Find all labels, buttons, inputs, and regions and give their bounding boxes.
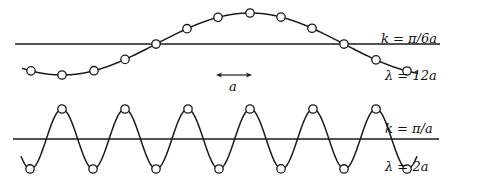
bottom-wavevector-label: k = π/a (385, 122, 433, 135)
spacing-label: a (229, 80, 237, 93)
atom-marker (308, 24, 316, 32)
atom-marker (309, 105, 317, 113)
top-wavelength-label: λ = 12a (385, 69, 437, 82)
atom-marker (152, 40, 160, 48)
atom-marker (340, 165, 348, 173)
atom-marker (340, 40, 348, 48)
atom-marker (184, 105, 192, 113)
atom-marker (277, 165, 285, 173)
top-wave-panel (15, 9, 440, 79)
atom-marker (121, 55, 129, 63)
atom-marker (89, 165, 97, 173)
atom-marker (121, 105, 129, 113)
atom-marker (58, 105, 66, 113)
atom-marker (152, 165, 160, 173)
bottom-wave-panel (13, 105, 439, 173)
atom-marker (277, 13, 285, 21)
spacing-arrow (216, 73, 252, 78)
atom-marker (90, 67, 98, 75)
atom-marker (27, 67, 35, 75)
atom-marker (215, 165, 223, 173)
lattice-wave-diagram (0, 0, 493, 184)
atom-marker (214, 13, 222, 21)
top-wavevector-label: k = π/6a (381, 32, 437, 45)
atom-marker (246, 105, 254, 113)
atom-marker (372, 56, 380, 64)
bottom-wavelength-label: λ = 2a (385, 160, 428, 173)
atom-marker (58, 71, 66, 79)
atom-marker (183, 24, 191, 32)
atom-marker (246, 9, 254, 17)
atom-marker (26, 165, 34, 173)
atom-marker (372, 105, 380, 113)
